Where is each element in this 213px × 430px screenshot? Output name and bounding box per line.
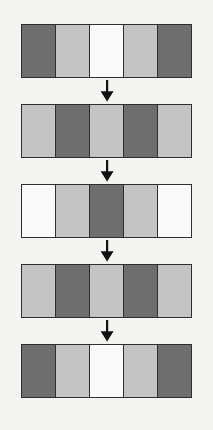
cell-r5-c1-dark (22, 345, 56, 397)
cell-r3-c3-dark (90, 185, 124, 237)
cell-r1-c4-light (124, 25, 158, 77)
cell-r1-c2-light (56, 25, 90, 77)
cell-r5-c3-white (90, 345, 124, 397)
cell-row-4 (21, 264, 192, 318)
cell-r4-c3-light (90, 265, 124, 317)
cell-r2-c4-dark (124, 105, 158, 157)
down-arrow-icon-1 (0, 78, 213, 104)
cell-r3-c1-white (22, 185, 56, 237)
cell-r4-c2-dark (56, 265, 90, 317)
sequence-figure (0, 0, 213, 430)
cell-r4-c1-light (22, 265, 56, 317)
cell-r3-c5-white (158, 185, 191, 237)
cell-row-3 (21, 184, 192, 238)
cell-r3-c4-light (124, 185, 158, 237)
cell-r2-c5-light (158, 105, 191, 157)
cell-r4-c4-dark (124, 265, 158, 317)
cell-r1-c3-white (90, 25, 124, 77)
down-arrow-icon-2 (0, 158, 213, 184)
cell-r5-c2-light (56, 345, 90, 397)
cell-row-5 (21, 344, 192, 398)
cell-r5-c5-dark (158, 345, 191, 397)
cell-r4-c5-light (158, 265, 191, 317)
cell-r2-c3-light (90, 105, 124, 157)
cell-r1-c1-dark (22, 25, 56, 77)
cell-row-2 (21, 104, 192, 158)
cell-row-1 (21, 24, 192, 78)
cell-r5-c4-light (124, 345, 158, 397)
cell-r2-c2-dark (56, 105, 90, 157)
down-arrow-icon-3 (0, 238, 213, 264)
cell-r2-c1-light (22, 105, 56, 157)
down-arrow-icon-4 (0, 318, 213, 344)
cell-r1-c5-dark (158, 25, 191, 77)
cell-r3-c2-light (56, 185, 90, 237)
